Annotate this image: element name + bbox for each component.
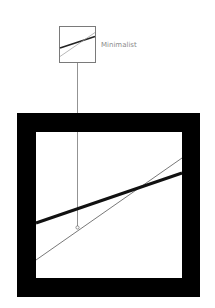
frame-inner bbox=[36, 132, 182, 278]
diagram-canvas: Minimalist bbox=[0, 0, 215, 308]
connector-end-circle bbox=[76, 226, 79, 229]
diagram-title-label: Minimalist bbox=[101, 41, 137, 49]
thumbnail-group bbox=[60, 27, 96, 63]
